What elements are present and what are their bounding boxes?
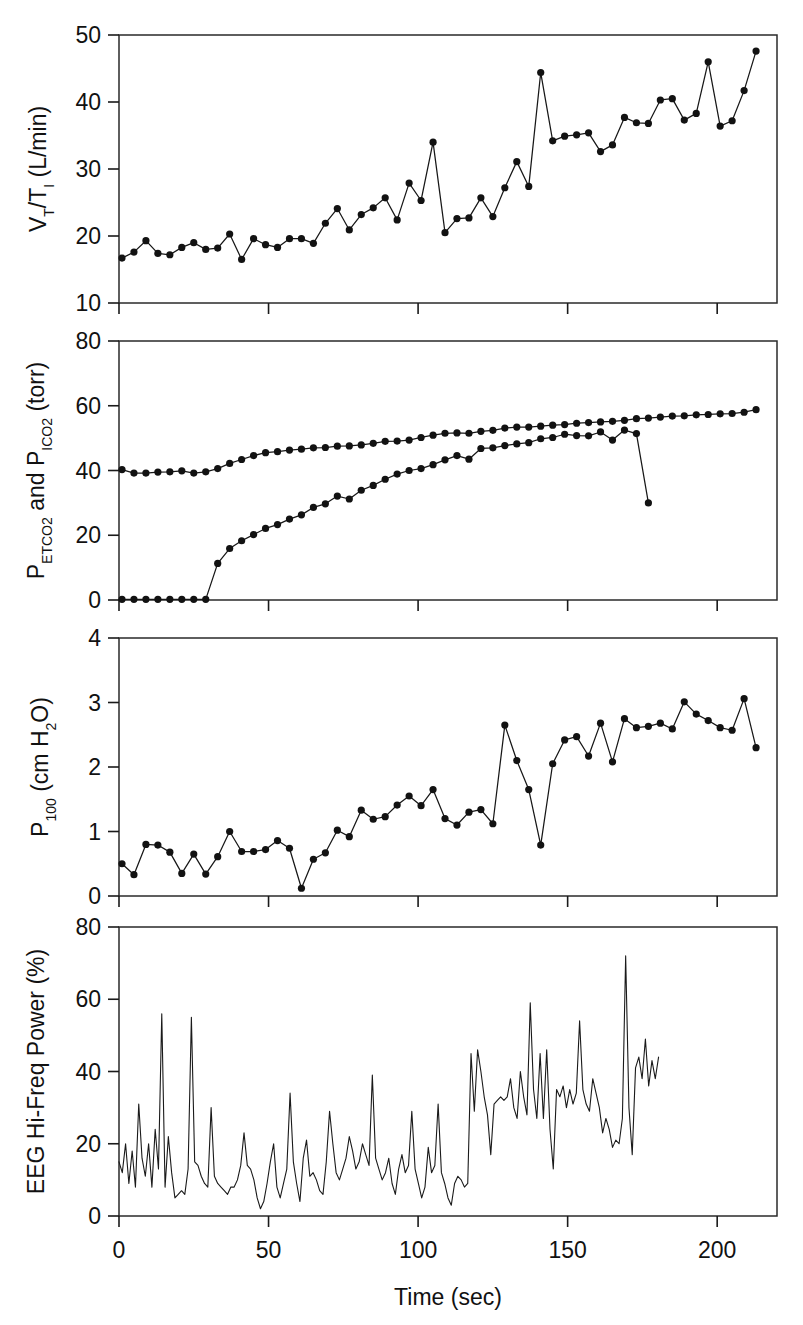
data-point-marker <box>286 515 293 522</box>
data-point-marker <box>717 724 724 731</box>
figure-canvas: 1020304050VT/TI (L/min)020406080PETCO2 a… <box>0 0 803 1325</box>
data-point-marker <box>298 235 305 242</box>
data-point-marker <box>597 148 604 155</box>
data-point-marker <box>154 250 161 257</box>
data-point-marker <box>705 411 712 418</box>
data-point-marker <box>489 820 496 827</box>
data-point-marker <box>633 724 640 731</box>
data-point-marker <box>513 424 520 431</box>
data-point-marker <box>370 440 377 447</box>
data-point-marker <box>741 409 748 416</box>
y-tick-label: 30 <box>75 156 101 182</box>
data-point-marker <box>262 525 269 532</box>
data-point-marker <box>729 410 736 417</box>
data-point-marker <box>525 439 532 446</box>
y-tick-label: 20 <box>75 1131 101 1157</box>
multi-panel-physiology-figure: 1020304050VT/TI (L/min)020406080PETCO2 a… <box>0 0 803 1325</box>
data-point-marker <box>669 413 676 420</box>
data-point-marker <box>693 411 700 418</box>
y-tick-label: 80 <box>75 328 101 354</box>
data-point-marker <box>394 216 401 223</box>
data-point-marker <box>298 446 305 453</box>
data-point-marker <box>633 119 640 126</box>
y-tick-label: 40 <box>75 1059 101 1085</box>
data-point-marker <box>717 410 724 417</box>
data-point-marker <box>537 69 544 76</box>
data-point-marker <box>477 428 484 435</box>
data-point-marker <box>346 833 353 840</box>
data-point-marker <box>262 241 269 248</box>
data-point-marker <box>358 807 365 814</box>
data-point-marker <box>334 205 341 212</box>
y-tick-label: 2 <box>88 754 101 780</box>
y-tick-label: 4 <box>88 625 101 651</box>
data-point-marker <box>633 430 640 437</box>
y-tick-label: 80 <box>75 914 101 940</box>
data-point-marker <box>382 813 389 820</box>
x-tick-label: 0 <box>113 1237 126 1263</box>
data-point-marker <box>118 596 125 603</box>
data-point-marker <box>286 235 293 242</box>
data-point-marker <box>513 440 520 447</box>
data-point-marker <box>705 717 712 724</box>
data-point-marker <box>645 499 652 506</box>
y-tick-label: 0 <box>88 883 101 909</box>
data-point-marker <box>729 117 736 124</box>
data-point-marker <box>166 468 173 475</box>
data-point-marker <box>370 482 377 489</box>
data-point-marker <box>693 711 700 718</box>
data-point-marker <box>573 420 580 427</box>
data-point-marker <box>525 183 532 190</box>
data-point-marker <box>465 430 472 437</box>
data-point-marker <box>322 220 329 227</box>
data-point-marker <box>453 452 460 459</box>
data-point-marker <box>346 442 353 449</box>
data-point-marker <box>477 194 484 201</box>
data-point-marker <box>382 438 389 445</box>
data-point-marker <box>752 47 759 54</box>
y-tick-label: 60 <box>75 986 101 1012</box>
data-point-marker <box>310 856 317 863</box>
data-point-marker <box>358 487 365 494</box>
data-point-marker <box>130 248 137 255</box>
data-point-marker <box>130 871 137 878</box>
x-tick-label: 150 <box>548 1237 586 1263</box>
data-point-marker <box>417 197 424 204</box>
data-point-marker <box>417 465 424 472</box>
data-point-marker <box>346 495 353 502</box>
x-tick-label: 200 <box>698 1237 736 1263</box>
data-point-marker <box>621 114 628 121</box>
data-point-marker <box>513 757 520 764</box>
y-tick-label: 40 <box>75 458 101 484</box>
data-point-marker <box>118 255 125 262</box>
data-point-marker <box>513 158 520 165</box>
data-point-marker <box>346 226 353 233</box>
data-point-marker <box>489 427 496 434</box>
data-point-marker <box>693 110 700 117</box>
data-point-marker <box>429 461 436 468</box>
data-point-marker <box>262 846 269 853</box>
data-point-marker <box>549 422 556 429</box>
data-point-marker <box>657 413 664 420</box>
x-axis-title: Time (sec) <box>394 1284 502 1310</box>
data-point-marker <box>609 141 616 148</box>
data-point-marker <box>238 848 245 855</box>
data-point-marker <box>525 424 532 431</box>
data-point-marker <box>226 230 233 237</box>
data-point-marker <box>585 432 592 439</box>
data-point-marker <box>501 184 508 191</box>
data-point-marker <box>238 456 245 463</box>
data-point-marker <box>130 469 137 476</box>
data-point-marker <box>669 725 676 732</box>
data-point-marker <box>250 235 257 242</box>
data-point-marker <box>752 744 759 751</box>
data-point-marker <box>657 96 664 103</box>
data-point-marker <box>202 468 209 475</box>
y-tick-label: 0 <box>88 587 101 613</box>
data-point-marker <box>441 430 448 437</box>
data-point-marker <box>238 537 245 544</box>
data-point-marker <box>178 596 185 603</box>
data-point-marker <box>633 415 640 422</box>
data-point-marker <box>549 137 556 144</box>
data-point-marker <box>621 417 628 424</box>
